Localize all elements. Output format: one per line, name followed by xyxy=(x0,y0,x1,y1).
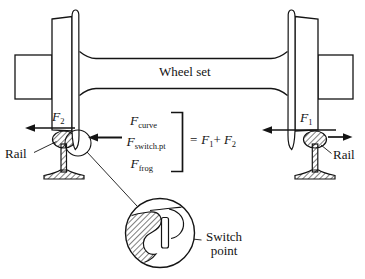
force-f2-label: F2 xyxy=(52,110,65,126)
f2-subscript: 2 xyxy=(60,116,64,126)
equals-sign: = xyxy=(190,132,197,147)
force-equation: =F1+F2 xyxy=(190,133,236,149)
switch-point-label: Switch point xyxy=(199,230,249,258)
rail-right-pointer-line xyxy=(321,145,332,154)
eq-f2-symbol: F xyxy=(224,132,232,147)
wheelset-force-diagram: Wheel set F2 F1 Fcurve Fswitch.pt Ffrog … xyxy=(0,0,365,279)
f1-subscript: 1 xyxy=(308,117,312,127)
rail-label-right: Rail xyxy=(333,148,355,162)
force-switch-pt-label: Fswitch.pt xyxy=(127,135,166,151)
journal-right xyxy=(318,55,353,99)
rail-left-pointer-line xyxy=(34,142,57,153)
force-f1-label: F1 xyxy=(300,111,313,127)
force-frog-label: Ffrog xyxy=(131,157,153,173)
force-curve-label: Fcurve xyxy=(130,114,157,130)
detail-switch-point-blade xyxy=(162,218,169,249)
detail-edge-wedge xyxy=(117,241,124,253)
force-bracket xyxy=(171,113,183,172)
diagram-linework xyxy=(0,0,365,279)
switch-pt-symbol: F xyxy=(127,134,135,149)
curve-subscript: curve xyxy=(138,120,157,130)
force-arrow-center xyxy=(88,134,122,142)
eq-f2-subscript: 2 xyxy=(232,139,236,149)
eq-f1-subscript: 1 xyxy=(209,139,213,149)
force-arrow-right-out xyxy=(328,133,353,141)
flange-right xyxy=(288,10,295,150)
f2-symbol: F xyxy=(52,109,60,124)
rail-label-left: Rail xyxy=(5,147,27,161)
curve-symbol: F xyxy=(130,113,138,128)
plus-sign: + xyxy=(214,132,221,147)
detail-connector-line xyxy=(87,152,137,206)
frog-subscript: frog xyxy=(139,163,153,173)
switch-pt-subscript: switch.pt xyxy=(135,141,166,151)
f1-symbol: F xyxy=(300,110,308,125)
frog-symbol: F xyxy=(131,156,139,171)
wheel-set-label: Wheel set xyxy=(159,65,211,79)
rail-right xyxy=(295,131,335,179)
journal-left xyxy=(15,55,52,99)
